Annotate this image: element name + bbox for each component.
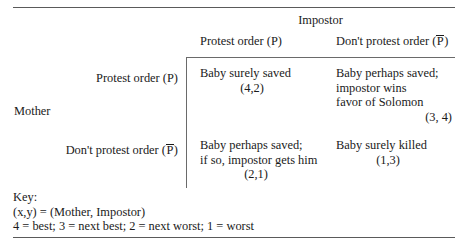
column-header-dont-protest-order: Don't protest order (P) [336, 34, 448, 48]
key-scale-line: 4 = best; 3 = next best; 2 = next worst;… [13, 219, 254, 234]
top-horizontal-rule [13, 7, 455, 8]
cell-text-line: favor of Solomon [336, 95, 460, 110]
column-header-1-prefix: Protest order ( [200, 34, 271, 48]
row-header-protest-order: Protest order (P) [8, 71, 178, 85]
matrix-cell-r1c2: Baby perhaps saved; impostor wins favor … [336, 66, 460, 124]
column-header-2-suffix: ) [444, 34, 448, 48]
cell-text-line: Baby perhaps saved; [336, 66, 460, 81]
cell-payoff: (4,2) [200, 81, 304, 96]
row-header-dont-protest-order: Don't protest order (P) [8, 143, 178, 157]
column-header-1-symbol: P [271, 34, 278, 48]
column-header-2-prefix: Don't protest order ( [336, 34, 436, 48]
column-header-protest-order: Protest order (P) [200, 34, 282, 48]
key-block: Key: (x,y) = (Mother, Impostor) 4 = best… [13, 190, 254, 234]
row-header-2-suffix: ) [174, 143, 178, 157]
cell-text-line: if so, impostor gets him [200, 153, 336, 168]
payoff-matrix-figure: Impostor Protest order (P) Don't protest… [0, 0, 464, 246]
row-player-label: Mother [14, 104, 50, 118]
matrix-cell-r2c1: Baby perhaps saved; if so, impostor gets… [200, 138, 336, 182]
matrix-vertical-rule [186, 58, 187, 188]
cell-text-line: Baby perhaps saved; [200, 138, 336, 153]
column-header-1-suffix: ) [278, 34, 282, 48]
matrix-cell-r2c2: Baby surely killed (1,3) [336, 138, 458, 167]
key-tuple-line: (x,y) = (Mother, Impostor) [13, 205, 254, 220]
row-header-1-prefix: Protest order ( [96, 71, 167, 85]
cell-text-line: impostor wins [336, 81, 460, 96]
cell-text-line: Baby surely killed [336, 138, 458, 153]
cell-payoff: (1,3) [336, 153, 440, 168]
cell-payoff: (3, 4) [336, 110, 452, 125]
header-separator-rule [186, 57, 455, 58]
bottom-horizontal-rule [13, 237, 455, 238]
row-header-1-suffix: ) [174, 71, 178, 85]
row-header-2-symbol-negated: P [166, 143, 174, 157]
column-player-label: Impostor [186, 13, 455, 27]
column-header-2-symbol-negated: P [436, 34, 444, 48]
cell-payoff: (2,1) [200, 167, 312, 182]
matrix-cell-r1c1: Baby surely saved (4,2) [200, 66, 320, 95]
row-header-2-prefix: Don't protest order ( [66, 143, 166, 157]
cell-text-line: Baby surely saved [200, 66, 320, 81]
key-title: Key: [13, 190, 254, 205]
row-header-1-symbol: P [167, 71, 174, 85]
